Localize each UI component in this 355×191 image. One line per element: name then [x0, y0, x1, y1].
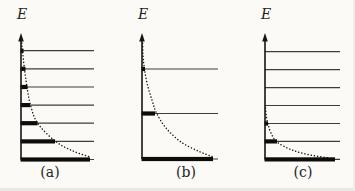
- panel-a-caption: (a): [28, 164, 72, 180]
- population-bar: [142, 111, 156, 115]
- panel-a: [18, 33, 94, 162]
- panel-a-energy-axis-label: E: [12, 6, 32, 22]
- panel-b: [139, 33, 218, 161]
- axis-arrowhead-icon: [139, 33, 145, 42]
- panel-b-energy-axis-label: E: [133, 6, 153, 22]
- population-bar: [21, 139, 56, 143]
- population-decay-dotted-curve: [266, 108, 331, 158]
- axis-arrowhead-icon: [18, 33, 24, 42]
- population-bar: [21, 121, 38, 125]
- population-bar: [21, 103, 31, 107]
- panel-c-energy-axis-label: E: [256, 6, 276, 22]
- panel-b-caption: (b): [164, 164, 208, 180]
- axis-arrowhead-icon: [262, 33, 268, 42]
- population-bar: [265, 157, 336, 161]
- scan-edge-bottom: [0, 188, 355, 191]
- diagram-canvas: [0, 0, 355, 191]
- population-decay-dotted-curve: [143, 37, 213, 157]
- population-bar: [265, 139, 278, 143]
- panel-c: [262, 33, 340, 162]
- population-bar: [142, 157, 214, 161]
- panel-c-caption: (c): [281, 164, 325, 180]
- population-bar: [21, 157, 91, 161]
- energy-level-figure: E E E (a) (b) (c): [0, 0, 355, 191]
